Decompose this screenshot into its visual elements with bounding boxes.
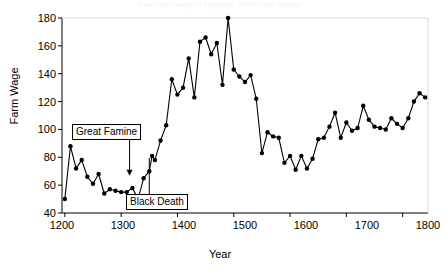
data-point — [254, 97, 258, 101]
data-point — [113, 189, 117, 193]
data-point — [158, 138, 162, 142]
data-point — [141, 176, 145, 180]
data-point — [271, 134, 275, 138]
data-point — [119, 190, 123, 194]
data-point — [226, 16, 230, 20]
data-point — [310, 156, 314, 160]
data-point — [186, 56, 190, 60]
data-point — [108, 187, 112, 191]
data-point — [423, 95, 427, 99]
data-point — [417, 91, 421, 95]
data-point — [220, 83, 224, 87]
y-tick-marks — [58, 18, 62, 213]
data-point — [164, 123, 168, 127]
data-point — [277, 136, 281, 140]
data-point — [232, 67, 236, 71]
data-point — [150, 154, 154, 158]
data-point — [305, 166, 309, 170]
axes — [62, 18, 428, 213]
data-point — [237, 74, 241, 78]
data-point — [265, 130, 269, 134]
data-point — [170, 77, 174, 81]
data-point — [400, 126, 404, 130]
data-point — [378, 126, 382, 130]
data-point — [243, 80, 247, 84]
data-point — [175, 92, 179, 96]
data-point — [102, 191, 106, 195]
data-point — [181, 85, 185, 89]
data-point — [316, 137, 320, 141]
data-point — [299, 154, 303, 158]
data-point — [322, 136, 326, 140]
data-point — [282, 161, 286, 165]
data-markers-farm-wage — [63, 16, 428, 201]
data-point — [192, 95, 196, 99]
data-point — [248, 73, 252, 77]
data-point — [74, 166, 78, 170]
data-point — [203, 35, 207, 39]
data-point — [288, 154, 292, 158]
data-point — [372, 124, 376, 128]
data-point — [96, 172, 100, 176]
annotation-leaders — [127, 137, 150, 196]
data-point — [333, 111, 337, 115]
data-point — [339, 136, 343, 140]
data-point — [91, 182, 95, 186]
data-point — [198, 39, 202, 43]
data-point — [350, 129, 354, 133]
data-point — [412, 99, 416, 103]
data-point — [80, 158, 84, 162]
data-point — [384, 127, 388, 131]
data-point — [85, 175, 89, 179]
data-point — [389, 116, 393, 120]
data-point — [215, 41, 219, 45]
data-point — [344, 120, 348, 124]
data-point — [367, 117, 371, 121]
data-point — [327, 124, 331, 128]
data-point — [260, 151, 264, 155]
data-point — [406, 116, 410, 120]
data-point — [361, 104, 365, 108]
annotation-black-death: Black Death — [126, 194, 188, 210]
data-point — [63, 197, 67, 201]
x-tick-marks — [65, 213, 403, 217]
data-line-farm-wage — [65, 18, 425, 199]
data-point — [209, 52, 213, 56]
data-point — [395, 122, 399, 126]
data-point — [153, 158, 157, 162]
down-arrow-icon — [127, 170, 133, 176]
annotation-great-famine: Great Famine — [72, 124, 141, 140]
data-point — [130, 186, 134, 190]
data-point — [68, 144, 72, 148]
data-point — [355, 126, 359, 130]
data-point — [293, 168, 297, 172]
